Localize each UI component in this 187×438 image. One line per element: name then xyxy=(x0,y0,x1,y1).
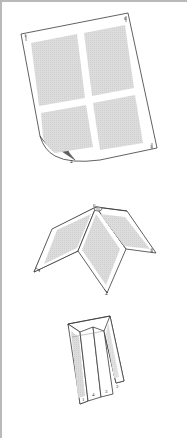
figure-3-collapsed-stack: 1 4 3 2 xyxy=(68,316,124,404)
panel-top-left xyxy=(31,34,85,106)
panel-bottom-right xyxy=(93,95,143,150)
figure-1-flat-sheet: 1 6 5 4 xyxy=(21,13,157,164)
apex-grommet-inner-icon xyxy=(96,208,99,210)
panel-bottom-left xyxy=(41,105,93,153)
figure-2-folded-tent: 6 5 1 4 xyxy=(34,203,156,296)
technical-drawing-canvas: 1 6 5 4 6 5 1 4 xyxy=(0,0,187,438)
callout-figure3-2: 2 xyxy=(116,384,119,389)
panel-top-right xyxy=(84,25,134,96)
